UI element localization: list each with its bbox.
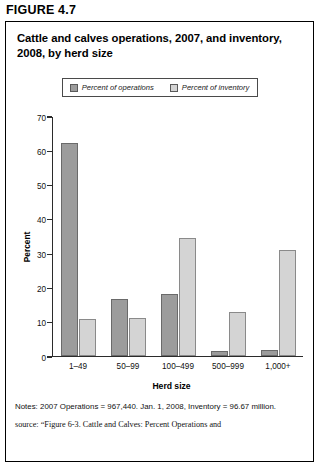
bar-inventory	[229, 312, 246, 356]
y-axis-tick	[47, 116, 52, 117]
legend-item-inventory: Percent of inventory	[170, 83, 250, 92]
legend-item-operations: Percent of operations	[70, 83, 154, 92]
bar-inventory	[279, 250, 296, 356]
y-axis-tick-label: 10	[22, 319, 46, 328]
bar-operations	[261, 350, 278, 356]
chart-notes: Notes: 2007 Operations = 967,440. Jan. 1…	[6, 391, 313, 412]
plot-area: Percent 010203040506070 1–4950–99100–499…	[6, 111, 313, 383]
y-axis-tick	[47, 219, 52, 220]
y-axis-tick-label: 0	[22, 353, 46, 362]
bar-group	[153, 117, 203, 356]
y-axis-tick	[47, 356, 52, 357]
chart-title: Cattle and calves operations, 2007, and …	[6, 22, 313, 60]
x-axis-tick-label: 500–999	[203, 362, 253, 371]
chart-legend: Percent of operations Percent of invento…	[62, 78, 258, 97]
x-axis-tick-labels: 1–4950–99100–499500–9991,000+	[53, 362, 303, 371]
bar-group	[53, 117, 103, 356]
x-axis-tick-label: 50–99	[103, 362, 153, 371]
bar-operations	[61, 143, 78, 356]
legend-swatch-operations-icon	[70, 84, 78, 92]
legend-swatch-inventory-icon	[170, 84, 178, 92]
bar-group	[253, 117, 303, 356]
x-axis-tick-label: 1,000+	[253, 362, 303, 371]
y-axis-tick-label: 60	[22, 147, 46, 156]
bar-group	[203, 117, 253, 356]
figure-container: Cattle and calves operations, 2007, and …	[5, 21, 314, 462]
y-axis-tick-label: 40	[22, 216, 46, 225]
x-axis-tick-label: 1–49	[53, 362, 103, 371]
y-axis-tick-label: 20	[22, 284, 46, 293]
bar-inventory	[129, 318, 146, 356]
x-axis-tick-label: 100–499	[153, 362, 203, 371]
bar-operations	[111, 299, 128, 355]
y-axis-tick	[47, 288, 52, 289]
bar-group-container	[53, 117, 303, 356]
y-axis-tick	[47, 322, 52, 323]
y-axis-tick-label: 70	[22, 113, 46, 122]
legend-label-operations: Percent of operations	[82, 83, 154, 92]
y-axis-tick-label: 30	[22, 250, 46, 259]
axes: 010203040506070	[52, 117, 303, 357]
bar-inventory	[79, 319, 96, 355]
chart-source: source: “Figure 6-3. Cattle and Calves: …	[6, 412, 313, 430]
y-axis-tick	[47, 151, 52, 152]
bar-operations	[211, 351, 228, 355]
y-axis-tick-label: 50	[22, 182, 46, 191]
figure-label: FIGURE 4.7	[0, 0, 321, 21]
bar-group	[103, 117, 153, 356]
y-axis-tick	[47, 254, 52, 255]
y-axis-tick	[47, 185, 52, 186]
bar-operations	[161, 294, 178, 355]
bar-inventory	[179, 238, 196, 356]
x-axis-line	[52, 356, 303, 357]
legend-label-inventory: Percent of inventory	[182, 83, 250, 92]
